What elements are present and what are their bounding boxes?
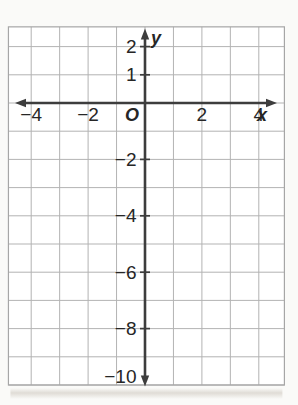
x-tick-label: −4 [20,104,42,125]
y-tick-label: −10 [104,366,136,387]
y-tick-label: −2 [115,149,137,170]
y-tick-label: −6 [115,262,137,283]
x-tick-label: −2 [77,104,99,125]
y-tick-label: 2 [126,36,137,57]
plot-background [8,27,284,385]
grid [8,27,284,399]
coordinate-plane: 21−2−4−6−8−10−4−224 y x O [0,0,298,405]
y-tick-label: −8 [115,318,137,339]
x-axis-label: x [256,105,268,125]
origin-label: O [125,105,139,125]
y-tick-label: 1 [126,64,137,85]
y-axis-label: y [150,28,162,48]
x-tick-label: 2 [197,104,208,125]
page-shadow [10,388,282,399]
y-tick-label: −4 [115,205,137,226]
page: 21−2−4−6−8−10−4−224 y x O [0,0,298,405]
